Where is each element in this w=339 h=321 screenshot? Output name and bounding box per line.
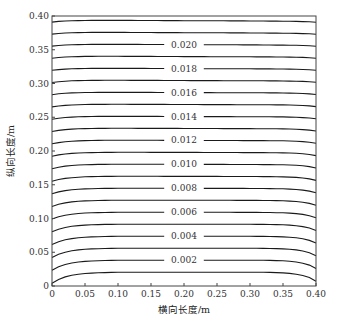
contour-line [204, 69, 316, 71]
contour-label: 0.008 [171, 183, 197, 193]
contour-label: 0.006 [171, 207, 197, 217]
contour-label: 0.018 [171, 64, 197, 74]
contour-lines [52, 20, 316, 283]
contour-chart: 0.0020.0040.0060.0080.0100.0120.0140.016… [0, 0, 339, 321]
x-tick-label: 0.30 [240, 289, 260, 299]
contour-line [52, 104, 316, 107]
contour-line [204, 236, 316, 243]
contour-line [52, 236, 164, 244]
contour-line [204, 260, 316, 268]
contour-line [52, 20, 316, 22]
y-tick-label: 0.05 [29, 247, 49, 257]
contour-line [204, 212, 316, 218]
y-tick-label: 0 [43, 281, 49, 291]
contour-label: 0.002 [171, 255, 197, 265]
contour-line [52, 152, 316, 156]
contour-line [52, 92, 164, 94]
contour-line [52, 164, 164, 168]
contour-line [204, 45, 316, 47]
x-tick-label: 0.40 [306, 289, 326, 299]
contour-line [52, 176, 316, 181]
x-tick-label: 0.10 [108, 289, 128, 299]
y-tick-label: 0.25 [29, 112, 49, 122]
x-tick-label: 0.20 [174, 289, 194, 299]
contour-line [52, 116, 164, 119]
contour-line [52, 272, 316, 283]
y-axis-title: 纵向长度/m [5, 125, 16, 177]
contour-line [204, 117, 316, 119]
contour-line [52, 128, 316, 131]
contour-label: 0.020 [171, 40, 197, 50]
contour-line [52, 80, 316, 82]
y-tick-label: 0.15 [29, 180, 49, 190]
contour-label: 0.012 [171, 135, 197, 145]
contour-line [52, 200, 316, 206]
x-tick-label: 0.25 [207, 289, 227, 299]
y-axis-ticks: 00.050.100.150.200.250.300.350.40 [29, 11, 55, 291]
y-tick-label: 0.40 [29, 11, 49, 21]
y-tick-label: 0.20 [29, 146, 49, 156]
x-tick-label: 0 [49, 289, 55, 299]
contour-line [52, 140, 164, 144]
contour-line [52, 212, 164, 219]
contour-line [52, 260, 164, 270]
contour-line [52, 32, 316, 34]
contour-label: 0.014 [171, 112, 197, 122]
y-tick-label: 0.10 [29, 214, 49, 224]
contour-label: 0.016 [171, 88, 197, 98]
y-tick-label: 0.35 [29, 45, 49, 55]
contour-line [52, 56, 316, 58]
contour-line [52, 68, 164, 70]
contour-label: 0.010 [171, 159, 197, 169]
contour-line [52, 44, 164, 46]
x-axis-title: 横向长度/m [158, 304, 210, 315]
y-tick-label: 0.30 [29, 79, 49, 89]
contour-line [204, 188, 316, 192]
x-tick-label: 0.05 [75, 289, 95, 299]
x-tick-label: 0.35 [273, 289, 293, 299]
x-axis-ticks: 00.050.100.150.200.250.300.350.40 [49, 283, 326, 299]
contour-line [204, 164, 316, 168]
contour-label: 0.004 [171, 231, 197, 241]
contour-line [204, 141, 316, 144]
contour-line [52, 188, 164, 194]
contour-line [204, 93, 316, 95]
x-tick-label: 0.15 [141, 289, 161, 299]
